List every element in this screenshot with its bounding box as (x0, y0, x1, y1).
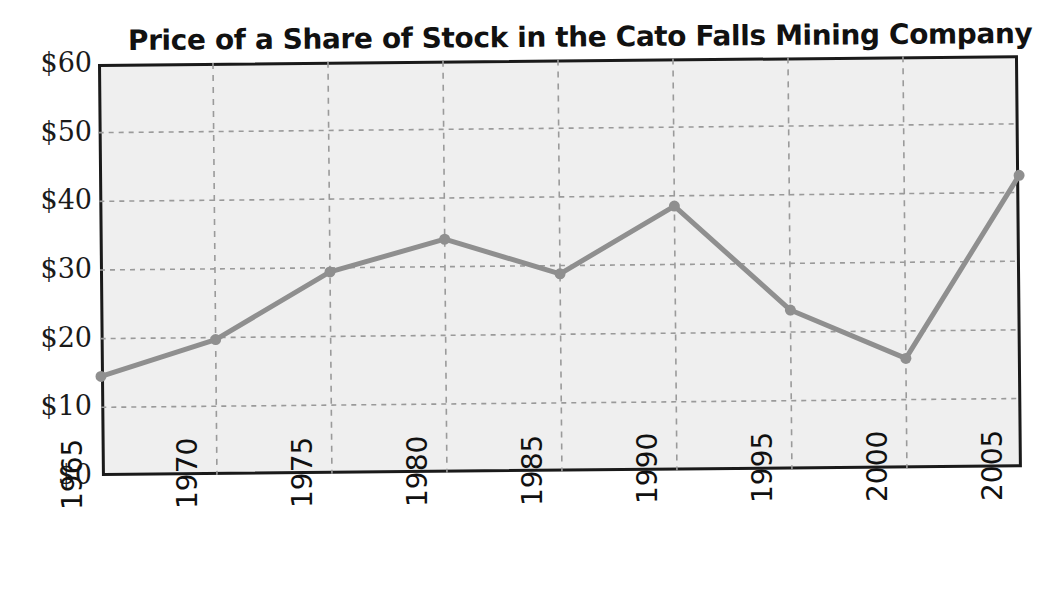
x-axis-tick-label: 1975 (289, 437, 317, 508)
x-axis-tick-labels: 196519701975198019851990199520002005 (0, 0, 1045, 595)
x-axis-tick-label: 1970 (174, 438, 202, 509)
x-axis-tick-label: 1980 (404, 435, 432, 506)
chart-figure: Price of a Share of Stock in the Cato Fa… (0, 0, 1045, 595)
x-axis-tick-label: 2005 (979, 430, 1007, 501)
x-axis-tick-label: 1985 (519, 434, 547, 505)
x-axis-tick-label: 1995 (749, 432, 777, 503)
x-axis-tick-label: 1965 (59, 439, 87, 510)
x-axis-tick-label: 1990 (634, 433, 662, 504)
x-axis-tick-label: 2000 (864, 431, 892, 502)
